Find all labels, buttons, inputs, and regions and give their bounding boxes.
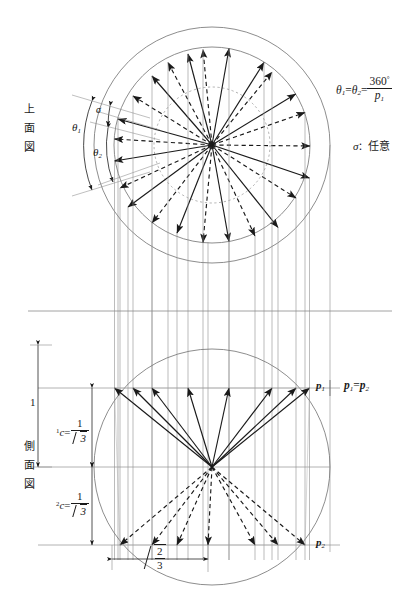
sigma-label: σ bbox=[96, 104, 101, 115]
c2-denominator: 3 bbox=[80, 504, 88, 518]
formula-numerator: 360 bbox=[369, 75, 386, 87]
theta1-arc bbox=[84, 101, 92, 190]
theta2-subscript: 2 bbox=[98, 152, 101, 159]
p1-point-label: p1 bbox=[316, 379, 325, 392]
c2-dimension-label: 2c=13 bbox=[56, 490, 89, 518]
dimension-one-value: 1 bbox=[30, 396, 36, 408]
angle-formula: θ1=θ2=360°p1 bbox=[336, 75, 392, 103]
side-view-group bbox=[38, 349, 340, 585]
top-view-group bbox=[72, 27, 330, 263]
bottom-dim-radbar: 23 bbox=[154, 544, 166, 572]
theta1-label: θ1 bbox=[72, 121, 81, 134]
formula-denominator-sub: 1 bbox=[381, 95, 385, 103]
sigma-symbol: σ bbox=[96, 104, 101, 115]
side-view-label-char-1: 面 bbox=[20, 456, 38, 475]
sigma-note: σ：任意 bbox=[353, 137, 390, 153]
c2-fraction: 13 bbox=[71, 490, 90, 518]
sigma-note-separator: ： bbox=[358, 141, 368, 152]
side-view-label: 側 面 図 bbox=[20, 437, 38, 494]
bottom-dim-radical: 23 bbox=[146, 544, 166, 572]
sigma-arc bbox=[108, 106, 110, 126]
side-view-dashed-arrows bbox=[120, 467, 305, 545]
sigma-note-value: 任意 bbox=[368, 140, 390, 153]
formula-degree-symbol: ° bbox=[387, 75, 390, 83]
projection-lines bbox=[115, 48, 331, 560]
p-equality-rhs-sub: 2 bbox=[366, 385, 370, 393]
c1-numerator: 1 bbox=[71, 417, 90, 431]
c1-denominator-wrap: 3 bbox=[71, 431, 90, 445]
theta2-label: θ2 bbox=[93, 146, 102, 159]
top-view-label-char-1: 面 bbox=[20, 119, 38, 138]
side-view-label-char-0: 側 bbox=[20, 437, 38, 456]
c2-numerator: 1 bbox=[71, 490, 90, 504]
top-view-label-char-2: 図 bbox=[20, 138, 38, 157]
top-view-label: 上 面 図 bbox=[20, 100, 38, 157]
p2-point-label: p2 bbox=[316, 536, 325, 549]
p2-point-subscript: 2 bbox=[322, 542, 325, 549]
c1-dimension-label: 1c=13 bbox=[56, 417, 89, 445]
c1-fraction: 13 bbox=[71, 417, 90, 445]
bottom-dim-denominator: 3 bbox=[155, 559, 165, 572]
bottom-dim-numerator: 2 bbox=[155, 545, 165, 559]
side-view-solid-arrows bbox=[115, 388, 310, 467]
c2-radical: 3 bbox=[73, 504, 88, 518]
dimension-one-label: 1 bbox=[30, 396, 36, 408]
formula-denominator-wrap: p1 bbox=[367, 89, 391, 103]
c2-denominator-wrap: 3 bbox=[71, 504, 90, 518]
bottom-dimension-label: 23 bbox=[146, 544, 166, 572]
top-view-label-char-0: 上 bbox=[20, 100, 38, 119]
formula-fraction: 360°p1 bbox=[367, 75, 391, 103]
side-view-reference-lines bbox=[38, 388, 340, 545]
theta2-arc bbox=[106, 128, 113, 182]
p1-point-subscript: 1 bbox=[322, 385, 325, 392]
formula-numerator-wrap: 360° bbox=[367, 75, 391, 89]
theta1-subscript: 1 bbox=[77, 127, 80, 134]
c1-radical: 3 bbox=[73, 431, 88, 445]
c1-denominator: 3 bbox=[80, 431, 88, 445]
bottom-dim-fraction: 23 bbox=[155, 545, 165, 572]
top-view-dashed-spokes bbox=[115, 50, 311, 243]
angle-extension-guides bbox=[72, 95, 160, 196]
side-view-label-char-2: 図 bbox=[20, 475, 38, 494]
technical-drawing-figure: 上 面 図 側 面 図 θ1 σ θ2 θ1=θ2=360°p1 σ：任意 p1… bbox=[0, 0, 405, 605]
p-equality-formula: p1=p2 bbox=[344, 379, 369, 393]
